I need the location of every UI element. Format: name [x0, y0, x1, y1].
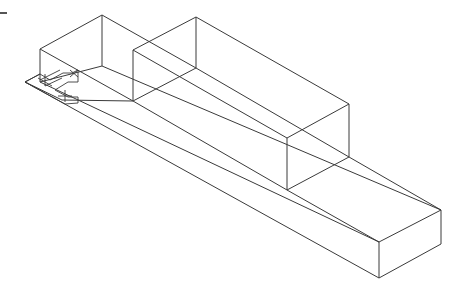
edge	[133, 68, 196, 101]
back-box[interactable]	[40, 15, 196, 101]
edge	[287, 104, 349, 138]
edge	[40, 49, 133, 101]
edge	[349, 157, 441, 210]
solids-group	[25, 15, 441, 278]
edge	[133, 50, 287, 138]
edge	[25, 82, 379, 278]
edge	[287, 157, 349, 190]
edge	[196, 17, 349, 104]
edge	[196, 68, 349, 157]
edge	[379, 210, 441, 242]
edge	[102, 66, 441, 210]
base-slab[interactable]	[25, 66, 441, 278]
isometric-drawing-canvas[interactable]	[0, 0, 465, 293]
edge	[379, 244, 441, 278]
middle-box[interactable]	[133, 17, 349, 190]
edge	[62, 100, 133, 101]
edge	[133, 101, 287, 190]
edge	[40, 15, 102, 49]
edge	[133, 17, 196, 50]
